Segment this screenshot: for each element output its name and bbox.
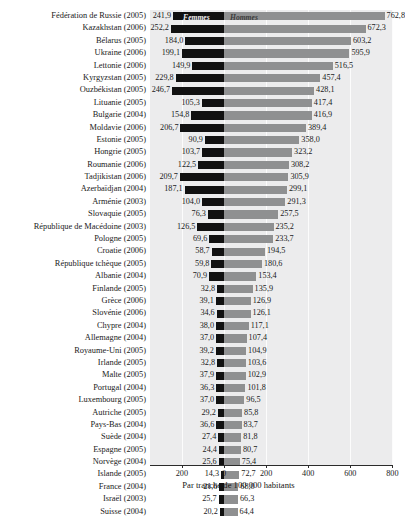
chart-row: Irlande (2005)32,8103,6 (0, 357, 401, 369)
value-label-femmes: 25,7 (187, 493, 217, 505)
bar-hommes (224, 322, 249, 330)
bar-group: 32,8135,9 (148, 283, 399, 295)
x-tick-label: 200 (260, 469, 272, 479)
bar-femmes (216, 384, 224, 392)
bar-group: 27,481,8 (148, 431, 399, 443)
chart-row: Tadjikistan (2006)209,7305,9 (0, 171, 401, 183)
x-tick (224, 465, 225, 468)
bar-group: 70,9153,4 (148, 270, 399, 282)
value-label-femmes: 59,8 (179, 258, 209, 270)
category-label: Slovaquie (2005) (0, 208, 148, 220)
value-label-femmes: 209,7 (148, 171, 178, 183)
chart-row: Kyrgyzstan (2005)229,8457,4 (0, 72, 401, 84)
value-label-femmes: 90,9 (173, 134, 203, 146)
value-label-femmes: 154,8 (159, 109, 189, 121)
bar-group: 20,264,4 (148, 506, 399, 518)
bar-group: 29,285,8 (148, 407, 399, 419)
value-label-femmes: 122,5 (166, 159, 196, 171)
bar-group: 24,480,7 (148, 444, 399, 456)
chart-row: Lituanie (2005)105,3417,4 (0, 97, 401, 109)
chart-row: Hongrie (2005)103,7323,2 (0, 146, 401, 158)
category-label: Estonie (2005) (0, 134, 148, 146)
category-label: Espagne (2005) (0, 444, 148, 456)
bar-hommes (224, 471, 239, 479)
bar-femmes (211, 260, 224, 268)
value-label-femmes: 199,1 (150, 47, 180, 59)
category-label: Moldavie (2006) (0, 122, 148, 134)
value-label-femmes: 37,9 (184, 369, 214, 381)
value-label-femmes: 39,2 (184, 345, 214, 357)
bar-femmes (216, 421, 224, 429)
value-label-femmes: 37,0 (184, 332, 214, 344)
bar-group: 39,2104,9 (148, 345, 399, 357)
bar-hommes (224, 297, 251, 305)
bar-hommes (224, 248, 265, 256)
value-label-femmes: 252,2 (139, 22, 169, 34)
bar-group: 38,0117,1 (148, 320, 399, 332)
value-label-femmes: 25,6 (187, 456, 217, 468)
value-label-hommes: 107,4 (249, 332, 267, 344)
x-tick-label: 200 (176, 469, 188, 479)
chart-row: Moldavie (2006)206,7389,4 (0, 122, 401, 134)
value-label-femmes: 36,6 (184, 419, 214, 431)
x-axis-title: Par tranche de 100 000 habitants (0, 480, 401, 490)
bar-femmes (173, 12, 224, 20)
value-label-femmes: 105,3 (170, 97, 200, 109)
bar-hommes (224, 25, 366, 33)
chart-row: Lettonie (2006)149,9516,5 (0, 60, 401, 72)
category-label: Pologne (2005) (0, 233, 148, 245)
category-label: Islande (2005) (0, 468, 148, 480)
bar-hommes (224, 372, 246, 380)
category-label: Albanie (2004) (0, 270, 148, 282)
chart-row: Suisse (2004)20,264,4 (0, 506, 401, 518)
value-label-hommes: 102,9 (248, 369, 266, 381)
category-label: Fédération de Russie (2005) (0, 10, 148, 22)
bar-femmes (217, 285, 224, 293)
bar-group: 103,7323,2 (148, 146, 399, 158)
value-label-femmes: 103,7 (170, 146, 200, 158)
chart-row: Albanie (2004)70,9153,4 (0, 270, 401, 282)
bar-femmes (216, 347, 224, 355)
bar-hommes (224, 49, 349, 57)
bar-group: 199,1595,9 (148, 47, 399, 59)
bar-hommes (224, 74, 320, 82)
bar-femmes (216, 334, 224, 342)
bar-group: 36,683,7 (148, 419, 399, 431)
chart-row: Allemagne (2004)37,0107,4 (0, 332, 401, 344)
bar-group: 58,7194,5 (148, 245, 399, 257)
chart-row: Royaume-Uni (2005)39,2104,9 (0, 345, 401, 357)
bar-hommes (224, 223, 274, 231)
category-label: Kyrgyzstan (2005) (0, 72, 148, 84)
value-label-femmes: 104,0 (170, 196, 200, 208)
bar-group: 187,1299,1 (148, 183, 399, 195)
category-label: Grèce (2006) (0, 295, 148, 307)
chart-row: Norvège (2004)25,675,4 (0, 456, 401, 468)
value-label-hommes: 153,4 (258, 270, 276, 282)
x-tick (182, 465, 183, 468)
bar-hommes (224, 186, 287, 194)
chart-row: Bulgarie (2004)154,8416,9 (0, 109, 401, 121)
value-label-femmes: 38,0 (184, 320, 214, 332)
category-label: Norvège (2004) (0, 456, 148, 468)
chart-row: Estonie (2005)90,9358,0 (0, 134, 401, 146)
value-label-hommes: 762,8 (387, 10, 405, 22)
chart-rows: Fédération de Russie (2005)241,9762,8Kaz… (0, 10, 401, 518)
category-label: Suisse (2004) (0, 506, 148, 518)
value-label-femmes: 20,2 (188, 506, 218, 518)
bar-femmes (182, 49, 224, 57)
bar-femmes (202, 148, 224, 156)
bar-hommes (224, 495, 238, 503)
bar-group: 37,9102,9 (148, 369, 399, 381)
bar-group: 34,6126,1 (148, 307, 399, 319)
chart-row: Pays-Bas (2004)36,683,7 (0, 419, 401, 431)
chart-row: Islande (2005)14,372,7 (0, 468, 401, 480)
bar-hommes (224, 347, 246, 355)
category-label: Malte (2005) (0, 369, 148, 381)
chart-row: Grèce (2006)39,1126,9 (0, 295, 401, 307)
chart-row: Espagne (2005)24,480,7 (0, 444, 401, 456)
bar-group: 59,8180,6 (148, 258, 399, 270)
bar-hommes (224, 198, 285, 206)
bar-hommes (224, 37, 351, 45)
bar-hommes (224, 235, 273, 243)
bar-hommes (224, 111, 312, 119)
